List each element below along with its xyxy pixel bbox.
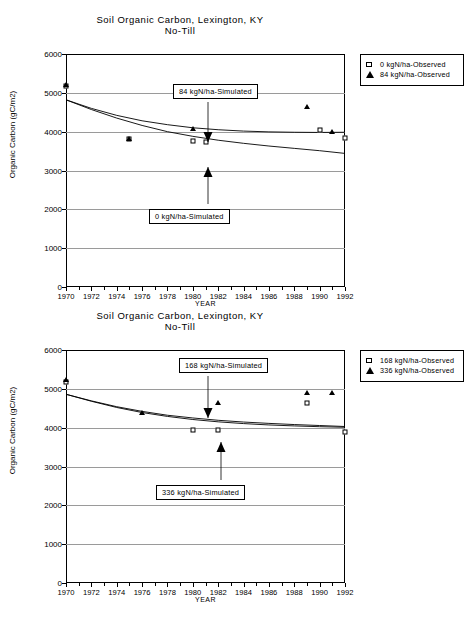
- x-minor-tick: [282, 287, 283, 290]
- annotation-label: 84 kgN/ha-Simulated: [173, 84, 258, 99]
- x-minor-tick: [307, 583, 308, 586]
- x-tick-mark: [117, 583, 118, 587]
- x-minor-tick: [180, 583, 181, 586]
- annotation-arrows-bottom: [66, 350, 345, 583]
- x-tick-mark: [218, 287, 219, 291]
- x-tick-mark: [167, 287, 168, 291]
- x-minor-tick: [104, 583, 105, 586]
- arrow-down-icon: [204, 408, 213, 418]
- x-tick-mark: [142, 287, 143, 291]
- x-tick-mark: [91, 583, 92, 587]
- x-tick-mark: [294, 287, 295, 291]
- annotation-label: 336 kgN/ha-Simulated: [156, 485, 245, 500]
- x-tick-mark: [244, 583, 245, 587]
- x-tick-mark: [193, 287, 194, 291]
- legend-item: 0 kgN/ha-Observed: [366, 60, 459, 69]
- legend-top: 0 kgN/ha-Observed 84 kgN/ha-Observed: [360, 54, 464, 86]
- y-tick-label: 5000: [44, 384, 62, 393]
- square-marker-icon: [366, 356, 380, 365]
- x-tick-mark: [320, 287, 321, 291]
- x-tick-mark: [91, 287, 92, 291]
- y-tick-label: 4000: [44, 127, 62, 136]
- legend-label: 336 kgN/ha-Observed: [380, 366, 454, 375]
- arrow-down-icon: [204, 132, 213, 142]
- x-minor-tick: [206, 583, 207, 586]
- annotation-label: 168 kgN/ha-Simulated: [179, 358, 268, 373]
- y-tick-label: 3000: [44, 462, 62, 471]
- legend-item: 84 kgN/ha-Observed: [366, 70, 459, 79]
- x-axis-title-top: YEAR: [66, 300, 345, 307]
- x-tick-mark: [345, 583, 346, 587]
- legend-bottom: 168 kgN/ha-Observed 336 kgN/ha-Observed: [360, 350, 464, 382]
- x-axis-title-bottom: YEAR: [66, 596, 345, 603]
- x-tick-mark: [294, 583, 295, 587]
- x-minor-tick: [231, 287, 232, 290]
- arrow-up-icon: [204, 167, 213, 177]
- x-minor-tick: [231, 583, 232, 586]
- chart-title-top: Soil Organic Carbon, Lexington, KY No-Ti…: [0, 14, 360, 36]
- plot-area-top: 84 kgN/ha-Simulated0 kgN/ha-Simulated: [66, 54, 345, 287]
- x-minor-tick: [129, 583, 130, 586]
- triangle-marker-icon: [366, 366, 380, 375]
- x-minor-tick: [104, 287, 105, 290]
- x-minor-tick: [155, 287, 156, 290]
- x-minor-tick: [307, 287, 308, 290]
- triangle-marker-icon: [366, 70, 380, 79]
- x-minor-tick: [155, 583, 156, 586]
- x-minor-tick: [282, 583, 283, 586]
- x-tick-mark: [167, 583, 168, 587]
- legend-label: 0 kgN/ha-Observed: [380, 60, 446, 69]
- y-tick-label: 3000: [44, 166, 62, 175]
- x-minor-tick: [332, 583, 333, 586]
- y-tick-label: 4000: [44, 423, 62, 432]
- x-tick-mark: [117, 287, 118, 291]
- y-tick-label: 5000: [44, 88, 62, 97]
- x-tick-mark: [142, 583, 143, 587]
- x-tick-mark: [345, 287, 346, 291]
- x-minor-tick: [79, 583, 80, 586]
- legend-label: 168 kgN/ha-Observed: [380, 356, 454, 365]
- y-tick-label: 2000: [44, 501, 62, 510]
- legend-item: 336 kgN/ha-Observed: [366, 366, 459, 375]
- legend-label: 84 kgN/ha-Observed: [380, 70, 450, 79]
- x-minor-tick: [129, 287, 130, 290]
- x-tick-mark: [269, 583, 270, 587]
- x-tick-mark: [320, 583, 321, 587]
- x-minor-tick: [332, 287, 333, 290]
- x-tick-mark: [244, 287, 245, 291]
- x-minor-tick: [206, 287, 207, 290]
- x-minor-tick: [79, 287, 80, 290]
- x-minor-tick: [256, 287, 257, 290]
- x-tick-mark: [66, 287, 67, 291]
- x-minor-tick: [180, 287, 181, 290]
- annotation-label: 0 kgN/ha-Simulated: [149, 209, 230, 224]
- y-tick-label: 6000: [44, 346, 62, 355]
- x-tick-mark: [66, 583, 67, 587]
- chart-panel-bottom: Soil Organic Carbon, Lexington, KY No-Ti…: [0, 310, 470, 606]
- y-axis-title-top: Organic Carbon (gC/m2): [8, 65, 17, 205]
- plot-area-bottom: 168 kgN/ha-Simulated336 kgN/ha-Simulated: [66, 350, 345, 583]
- legend-item: 168 kgN/ha-Observed: [366, 356, 459, 365]
- y-tick-label: 2000: [44, 205, 62, 214]
- chart-title-bottom: Soil Organic Carbon, Lexington, KY No-Ti…: [0, 310, 360, 332]
- square-marker-icon: [366, 60, 380, 69]
- x-tick-mark: [218, 583, 219, 587]
- x-tick-mark: [193, 583, 194, 587]
- y-axis-title-bottom: Organic Carbon (gC/m2): [8, 361, 17, 501]
- arrow-up-icon: [217, 442, 226, 452]
- y-tick-label: 1000: [44, 540, 62, 549]
- y-tick-label: 6000: [44, 50, 62, 59]
- chart-panel-top: Soil Organic Carbon, Lexington, KY No-Ti…: [0, 14, 470, 310]
- y-tick-label: 1000: [44, 244, 62, 253]
- x-tick-mark: [269, 287, 270, 291]
- x-minor-tick: [256, 583, 257, 586]
